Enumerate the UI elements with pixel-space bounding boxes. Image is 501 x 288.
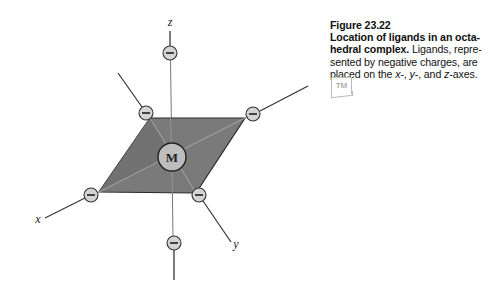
figure-caption: Figure 23.22 Location of ligands in an o… (330, 19, 500, 80)
ligand-upper-left (139, 106, 153, 120)
y-axis-label: y (232, 237, 239, 251)
ligand-top (163, 46, 177, 60)
ligand-y-axis (192, 188, 206, 202)
upper-right-axis-line (260, 86, 308, 111)
figure-title-line2: hedral complex. (330, 43, 409, 55)
caption-sep: -, (400, 68, 409, 80)
upper-left-axis-line (118, 73, 142, 107)
metal-center: M (158, 143, 186, 171)
x-axis-label: x (34, 212, 41, 226)
metal-label: M (166, 150, 178, 165)
figure-number: Figure 23.22 (330, 19, 500, 31)
tm-badge: TM (331, 77, 352, 94)
caption-text-line2: Ligands, repre- (409, 43, 482, 55)
z-axis-label: z (167, 15, 173, 29)
figure-title-line1: Location of ligands in an octa- (330, 31, 480, 43)
ligand-bottom (167, 236, 181, 250)
ligand-upper-right (246, 107, 260, 121)
y-axis-line (203, 201, 231, 242)
ligand-x-axis (84, 188, 98, 202)
caption-text-line3: sented by negative charges, are (330, 56, 478, 68)
caption-suffix: -axes. (449, 68, 477, 80)
caption-sep: -, and (415, 68, 444, 80)
x-axis-line (45, 198, 85, 218)
